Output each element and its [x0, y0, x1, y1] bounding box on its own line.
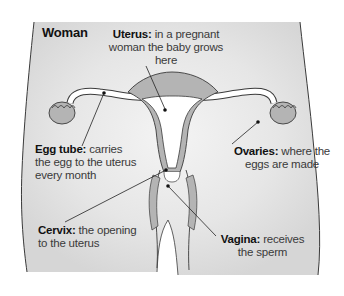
label-cervix: Cervix: the opening to the uterus: [38, 224, 158, 250]
uterus-desc-1: in a pregnant: [155, 28, 220, 40]
uterus-desc-3: here: [106, 54, 226, 67]
vagina-desc-1: receives: [263, 233, 304, 245]
term-egg-tube: Egg tube:: [35, 143, 86, 155]
label-vagina: Vagina: receives the sperm: [215, 233, 310, 259]
egg-tube-desc-1: carries: [89, 143, 122, 155]
reproductive-diagram: Woman Uterus: in a pregnant woman the ba…: [0, 0, 344, 296]
egg-tube-desc-2: the egg to the uterus: [35, 156, 155, 169]
label-egg-tube: Egg tube: carries the egg to the uterus …: [35, 143, 155, 182]
ovaries-desc-2: eggs are made: [232, 158, 332, 171]
ovaries-desc-1: where the: [281, 145, 330, 157]
term-cervix: Cervix:: [38, 224, 76, 236]
term-ovaries: Ovaries:: [234, 145, 278, 157]
cervix-desc-2: to the uterus: [38, 237, 158, 250]
diagram-title: Woman: [42, 25, 88, 40]
label-ovaries: Ovaries: where the eggs are made: [232, 145, 332, 171]
label-uterus: Uterus: in a pregnant woman the baby gro…: [106, 28, 226, 67]
ovary-right: [270, 102, 296, 124]
ovary-left: [49, 102, 75, 124]
cervix-desc-1: the opening: [79, 224, 137, 236]
vagina-desc-2: the sperm: [215, 246, 310, 259]
term-vagina: Vagina:: [221, 233, 261, 245]
egg-tube-desc-3: every month: [35, 169, 155, 182]
uterus-desc-2: woman the baby grows: [106, 41, 226, 54]
term-uterus: Uterus:: [113, 28, 152, 40]
